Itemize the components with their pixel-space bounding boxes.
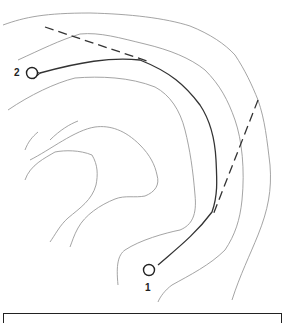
route-line xyxy=(40,59,217,265)
contour-line-5 xyxy=(25,151,97,242)
end-point-marker xyxy=(27,68,38,79)
right-dashed-line xyxy=(213,100,258,215)
contour-line-2 xyxy=(18,34,243,302)
contour-line-6 xyxy=(25,132,38,150)
contour-line-1 xyxy=(3,13,271,300)
contour-line-7 xyxy=(50,121,78,140)
upper-dashed-line xyxy=(45,27,150,62)
caption-frame xyxy=(3,313,282,323)
contour-lines xyxy=(3,13,271,302)
contour-line-4 xyxy=(30,127,158,247)
end-point-label: 2 xyxy=(14,68,20,78)
contour-line-3 xyxy=(8,77,195,285)
start-point-marker xyxy=(144,265,155,276)
start-point-label: 1 xyxy=(145,283,151,293)
